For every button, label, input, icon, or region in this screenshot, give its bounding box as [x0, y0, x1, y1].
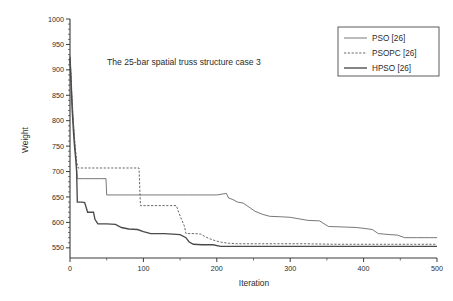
y-tick-label-850: 850 [52, 91, 64, 100]
x-tick-label-500: 500 [431, 264, 443, 273]
y-tick-label-700: 700 [52, 167, 64, 176]
y-tick-label-800: 800 [52, 116, 64, 125]
y-tick-label-950: 950 [52, 40, 64, 49]
legend-label-1: PSOPC [26] [372, 49, 417, 58]
y-tick-label-1000: 1000 [48, 15, 64, 24]
x-tick-label-200: 200 [211, 264, 223, 273]
x-tick-label-300: 300 [284, 264, 296, 273]
x-axis-title: Iteration [239, 278, 270, 288]
y-tick-label-600: 600 [52, 218, 64, 227]
y-tick-label-550: 550 [52, 243, 64, 252]
y-axis-title: Weight [20, 126, 30, 153]
y-tick-label-650: 650 [52, 193, 64, 202]
x-tick-label-100: 100 [137, 264, 149, 273]
legend-label-0: PSO [26] [372, 34, 405, 43]
x-tick-label-400: 400 [358, 264, 370, 273]
legend: PSO [26]PSOPC [26]HPSO [26] [338, 27, 439, 76]
y-tick-label-900: 900 [52, 65, 64, 74]
convergence-chart: 5506006507007508008509009501000010020030… [0, 0, 453, 301]
y-tick-label-750: 750 [52, 142, 64, 151]
plot-title: The 25-bar spatial truss structure case … [107, 57, 261, 67]
x-tick-label-0: 0 [68, 264, 72, 273]
legend-label-2: HPSO [26] [372, 64, 411, 73]
